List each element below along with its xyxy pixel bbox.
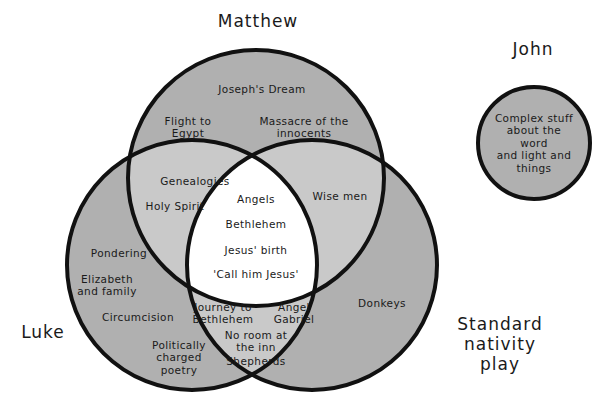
venn-diagram-canvas: Joseph's DreamFlight to EgyptMassacre of… (0, 0, 615, 420)
venn-circles-svg (0, 0, 615, 420)
